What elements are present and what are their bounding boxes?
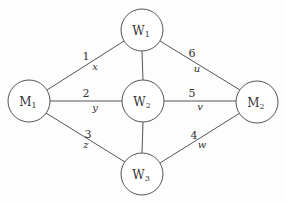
edge-1-variable: x (92, 61, 98, 72)
node-m1-sub: 1 (32, 101, 37, 110)
edge-2-variable: y (91, 102, 98, 113)
edge-w2-w3 (142, 122, 143, 153)
edge-3-variable: z (82, 139, 89, 150)
node-w1-sub: 1 (145, 30, 150, 39)
node-m1-label: M (19, 95, 31, 109)
node-w2-label: W (133, 95, 146, 109)
edge-w3-m2 (160, 113, 240, 163)
node-m2-label: M (247, 96, 259, 110)
node-w3-sub: 3 (145, 174, 150, 183)
edge-6-variable: u (194, 63, 200, 74)
node-m2-sub: 2 (260, 102, 265, 111)
network-diagram: 1 x 2 y 3 z 4 w 5 v 6 u M1 W1 W2 W3 M2 (0, 0, 286, 205)
edge-1-number: 1 (83, 50, 90, 63)
node-w3-label: W (132, 168, 145, 182)
node-w2-sub: 2 (146, 101, 151, 110)
node-m2: M2 (236, 81, 278, 123)
node-w1: W1 (121, 9, 163, 51)
node-m1: M1 (8, 80, 50, 122)
edge-4-variable: w (198, 139, 207, 150)
edge-2-number: 2 (83, 87, 90, 100)
node-w3: W3 (121, 153, 163, 195)
node-w1-label: W (132, 24, 145, 38)
node-w2: W2 (122, 80, 164, 122)
edge-4-number: 4 (191, 129, 198, 142)
diagram-svg: 1 x 2 y 3 z 4 w 5 v 6 u M1 W1 W2 W3 M2 (0, 0, 286, 205)
edge-6-number: 6 (189, 47, 196, 60)
edge-5-number: 5 (189, 87, 196, 100)
edge-m1-w1 (47, 41, 124, 90)
edge-5-variable: v (197, 101, 203, 112)
edge-w1-w2 (142, 51, 143, 80)
